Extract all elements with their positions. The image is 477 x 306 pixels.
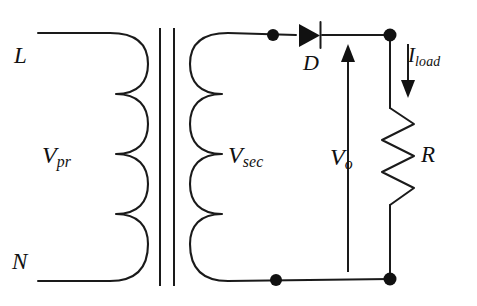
diode-triangle-icon [299,24,320,47]
label-secondary-voltage-subscript: sec [243,153,264,170]
secondary-winding [190,33,228,281]
label-diode: D [303,52,319,74]
resistor-zigzag [382,108,414,205]
label-output-voltage-subscript: o [345,155,353,172]
output-voltage-arrowhead-icon [341,44,355,62]
label-load-current-subscript: load [415,54,440,69]
circuit-diagram: L N Vpr Vsec D Vo R Iload [0,0,477,306]
primary-winding [110,33,148,281]
top-left-node [267,29,279,41]
label-output-voltage: Vo [330,145,353,169]
label-primary-voltage-subscript: pr [57,153,71,170]
bottom-right-node [384,273,397,286]
label-load-current: Iload [408,45,440,66]
secondary-top-wire [228,33,296,35]
label-secondary-voltage: Vsec [228,143,263,167]
top-right-node [384,29,397,42]
bottom-left-node [270,274,282,286]
secondary-bottom-wire [228,279,390,281]
load-current-arrowhead-icon [401,80,415,98]
label-neutral-terminal: N [12,250,27,273]
label-primary-voltage: Vpr [42,143,71,167]
label-line-terminal: L [14,44,27,67]
label-resistor: R [421,143,435,166]
